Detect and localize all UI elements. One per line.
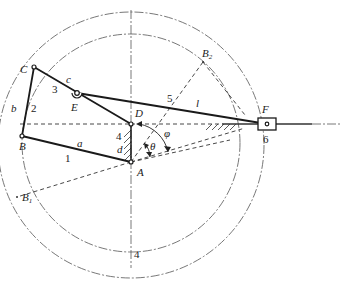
label-member-5: 5	[167, 92, 173, 104]
label-member-2: 2	[31, 102, 37, 114]
label-point-c: C	[20, 63, 28, 75]
outer-circle-path	[0, 12, 264, 278]
joint-d	[129, 122, 133, 126]
joint-b	[20, 134, 24, 138]
label-angle-phi: φ	[164, 127, 170, 139]
label-point-a: A	[136, 166, 144, 178]
link-3-rocker-cd	[34, 67, 131, 124]
theta-ref-line	[131, 140, 230, 162]
label-point-b2: B2	[202, 47, 213, 61]
label-link-b: b	[11, 102, 17, 114]
extreme-position-line-b1	[17, 162, 131, 197]
label-link-d: d	[117, 143, 123, 155]
label-member-6: 6	[263, 133, 269, 145]
label-member-4-frame: 4	[116, 130, 122, 142]
phi-arrow-start-icon	[136, 121, 142, 127]
label-link-c: c	[66, 73, 71, 85]
joint-b2	[202, 61, 204, 63]
theta-arrow-end-icon	[146, 152, 152, 157]
frame-hatch-da	[124, 130, 131, 161]
label-angle-theta: θ	[150, 140, 156, 152]
linkage-diagram: A B C D E F B2 B1 a b c d l 1 2 3 4 4 5 …	[0, 0, 343, 292]
frame-hatch-slider	[206, 124, 236, 130]
label-link-a: a	[77, 137, 83, 149]
label-member-3: 3	[52, 83, 58, 95]
extreme-position-line-b2-ext	[203, 62, 245, 115]
label-link-l: l	[196, 97, 199, 109]
label-point-b: B	[19, 140, 26, 152]
joint-f	[265, 122, 269, 126]
phi-arrow-icon	[164, 146, 171, 152]
label-point-e: E	[70, 101, 78, 113]
joint-c	[32, 65, 36, 69]
label-point-f: F	[261, 103, 269, 115]
label-member-1: 1	[65, 152, 71, 164]
joint-e	[75, 91, 80, 96]
joint-b1	[16, 196, 18, 198]
joint-a	[129, 160, 133, 164]
label-member-4-bottom: 4	[134, 248, 140, 260]
label-point-d: D	[134, 107, 143, 119]
